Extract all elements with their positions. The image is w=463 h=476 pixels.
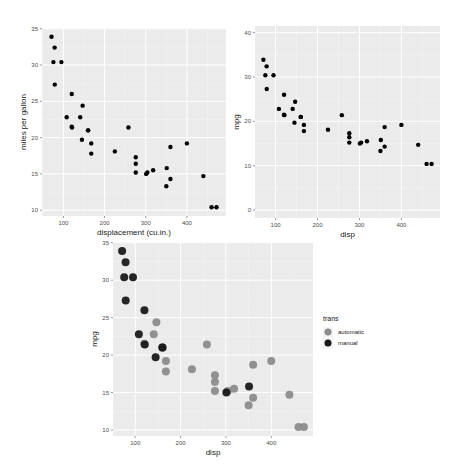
y-tick-label: 20 bbox=[102, 352, 109, 358]
data-point bbox=[209, 205, 213, 209]
data-point bbox=[340, 113, 344, 117]
y-tick-label: 35 bbox=[102, 240, 109, 246]
data-point bbox=[144, 172, 148, 176]
data-point bbox=[214, 205, 218, 209]
data-point bbox=[264, 64, 268, 68]
y-tick-label: 40 bbox=[244, 30, 251, 36]
data-point bbox=[293, 100, 297, 104]
data-point bbox=[302, 129, 306, 133]
x-tick-label: 100 bbox=[58, 220, 69, 226]
x-tick-label: 300 bbox=[221, 440, 232, 446]
legend-entry-label: automatic bbox=[338, 329, 364, 335]
x-tick-label: 100 bbox=[271, 222, 282, 228]
data-point bbox=[134, 162, 138, 166]
data-point bbox=[382, 125, 386, 129]
data-point bbox=[271, 73, 275, 77]
data-point bbox=[120, 273, 128, 281]
data-point bbox=[141, 341, 149, 349]
y-tick-label: 10 bbox=[31, 207, 38, 213]
data-point bbox=[211, 371, 219, 379]
data-point bbox=[365, 139, 369, 143]
data-point bbox=[347, 140, 351, 144]
data-point bbox=[265, 87, 269, 91]
data-point bbox=[162, 368, 170, 376]
data-point bbox=[78, 115, 82, 119]
legend-swatch-icon bbox=[325, 329, 332, 336]
data-point bbox=[80, 103, 84, 107]
data-point bbox=[135, 330, 143, 338]
x-tick-label: 400 bbox=[182, 220, 193, 226]
legend-entry-label: manual bbox=[338, 340, 358, 346]
data-point bbox=[188, 365, 196, 373]
data-point bbox=[267, 357, 275, 365]
data-point bbox=[282, 113, 286, 117]
y-tick-label: 25 bbox=[31, 98, 38, 104]
y-axis-label: miles per gallon bbox=[19, 94, 28, 150]
x-axis-label: displacement (cu.in.) bbox=[97, 228, 171, 237]
y-tick-label: 25 bbox=[102, 315, 109, 321]
data-point bbox=[211, 387, 219, 395]
legend-swatch-icon bbox=[325, 340, 332, 347]
data-point bbox=[122, 296, 130, 304]
data-point bbox=[151, 168, 155, 172]
chart-disp-vs-mpg-default: 100200300400010203040dispmpg bbox=[232, 26, 440, 239]
data-point bbox=[80, 138, 84, 142]
data-point bbox=[249, 361, 257, 369]
data-point bbox=[222, 389, 230, 397]
y-tick-label: 30 bbox=[244, 74, 251, 80]
data-point bbox=[201, 174, 205, 178]
data-point bbox=[168, 145, 172, 149]
data-point bbox=[64, 115, 68, 119]
data-point bbox=[134, 155, 138, 159]
y-tick-label: 15 bbox=[31, 171, 38, 177]
data-point bbox=[326, 128, 330, 132]
data-point bbox=[378, 149, 382, 153]
data-point bbox=[70, 125, 74, 129]
data-point bbox=[59, 60, 63, 64]
data-point bbox=[277, 107, 281, 111]
data-point bbox=[134, 170, 138, 174]
data-point bbox=[290, 107, 294, 111]
data-point bbox=[140, 306, 148, 314]
data-point bbox=[285, 391, 293, 399]
x-axis-label: disp bbox=[206, 448, 221, 457]
data-point bbox=[89, 141, 93, 145]
data-point bbox=[49, 35, 53, 39]
data-point bbox=[51, 60, 55, 64]
y-tick-label: 15 bbox=[102, 390, 109, 396]
plot-panel bbox=[42, 28, 226, 216]
data-point bbox=[347, 131, 351, 135]
data-point bbox=[86, 128, 90, 132]
data-point bbox=[382, 144, 386, 148]
legend: transautomaticmanual bbox=[323, 315, 364, 348]
y-tick-label: 0 bbox=[248, 207, 252, 213]
data-point bbox=[129, 273, 137, 281]
data-point bbox=[292, 120, 296, 124]
data-point bbox=[113, 149, 117, 153]
data-point bbox=[164, 184, 168, 188]
y-tick-label: 10 bbox=[244, 163, 251, 169]
data-point bbox=[249, 394, 257, 402]
data-point bbox=[263, 73, 267, 77]
data-point bbox=[261, 57, 265, 61]
data-point bbox=[245, 401, 253, 409]
y-tick-label: 35 bbox=[31, 26, 38, 32]
data-point bbox=[185, 141, 189, 145]
data-point bbox=[379, 138, 383, 142]
x-axis-label: disp bbox=[340, 230, 355, 239]
data-point bbox=[152, 353, 160, 361]
data-point bbox=[294, 423, 302, 431]
data-point bbox=[152, 318, 160, 326]
x-tick-label: 400 bbox=[396, 222, 407, 228]
data-point bbox=[299, 115, 303, 119]
y-tick-label: 30 bbox=[102, 277, 109, 283]
legend-title: trans bbox=[323, 315, 339, 322]
x-tick-label: 200 bbox=[176, 440, 187, 446]
data-point bbox=[245, 383, 253, 391]
y-tick-label: 10 bbox=[102, 427, 109, 433]
x-tick-label: 200 bbox=[100, 220, 111, 226]
data-point bbox=[347, 135, 351, 139]
data-point bbox=[126, 125, 130, 129]
data-point bbox=[53, 82, 57, 86]
data-point bbox=[162, 357, 170, 365]
